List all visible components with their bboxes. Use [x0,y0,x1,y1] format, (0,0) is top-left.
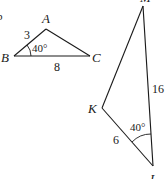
vertex-label-m: M [139,0,152,5]
vertex-label-a: A [41,11,50,26]
side-kl-length: 6 [113,133,119,147]
vertex-label-l: L [149,171,157,179]
similar-triangles-diagram: b A B C 3 8 40° M K L 16 6 40° [0,0,167,179]
angle-b-arc [27,45,31,56]
side-lm-length: 16 [152,82,164,96]
left-edge-label: b [0,10,3,22]
angle-b-measure: 40° [32,42,47,54]
side-kl [102,108,153,166]
triangle-klm [102,6,153,166]
vertex-label-c: C [92,50,101,65]
side-ac [46,29,90,56]
vertex-label-k: K [87,101,98,116]
side-ab-length: 3 [24,28,30,42]
side-km [102,6,143,108]
angle-l-arc [132,134,151,142]
vertex-label-b: B [1,50,9,65]
side-bc-length: 8 [54,60,60,74]
angle-l-measure: 40° [130,121,145,133]
